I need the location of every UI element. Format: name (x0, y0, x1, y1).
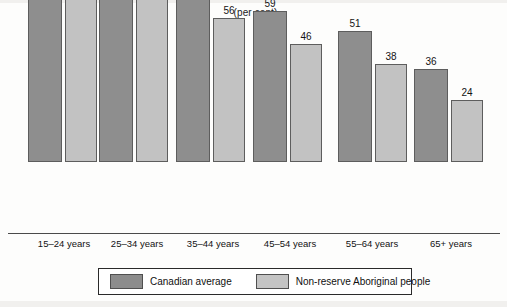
bar-item-canadian-average[interactable]: 51 (338, 18, 372, 162)
bar-chart-figure: (per cent) 71 69 73 (0, 0, 507, 307)
bar-rect[interactable] (213, 18, 245, 162)
plot-area: 71 69 73 65 (0, 0, 507, 236)
x-tick-label-1: 25–34 years (99, 238, 175, 249)
bar-pair: 36 24 (414, 56, 483, 162)
legend-label: Canadian average (150, 276, 232, 287)
bar-pair: 73 65 (99, 0, 168, 162)
legend-swatch-icon (110, 274, 143, 289)
bar-value-label: 24 (461, 87, 472, 98)
legend-label: Non-reserve Aboriginal people (296, 276, 431, 287)
bar-value-label: 51 (349, 18, 360, 29)
bar-rect[interactable] (99, 0, 133, 162)
bar-value-label: 59 (264, 0, 275, 9)
bar-rect[interactable] (414, 69, 448, 162)
x-tick-label-5: 65+ years (416, 238, 486, 249)
bar-rect[interactable] (451, 100, 483, 162)
legend-swatch-icon (256, 274, 289, 289)
x-tick-label-3: 45–54 years (252, 238, 328, 249)
scan-artifact-bottom (0, 301, 507, 307)
bar-rect[interactable] (136, 0, 168, 162)
chart-legend: Canadian average Non-reserve Aboriginal … (98, 268, 412, 295)
bar-item-non-reserve-aboriginal-people[interactable]: 24 (451, 87, 483, 162)
bar-item-non-reserve-aboriginal-people[interactable]: 69 (65, 0, 97, 162)
bar-pair: 67 56 (176, 0, 245, 162)
bar-pair: 59 46 (253, 0, 322, 162)
bar-item-canadian-average[interactable]: 36 (414, 56, 448, 162)
bar-value-label: 56 (223, 5, 234, 16)
bar-item-canadian-average[interactable]: 59 (253, 0, 287, 162)
bar-value-label: 46 (300, 31, 311, 42)
legend-item-canadian-average[interactable]: Canadian average (110, 274, 232, 289)
bar-item-canadian-average[interactable]: 71 (28, 0, 62, 162)
bar-rect[interactable] (375, 64, 407, 162)
bar-item-canadian-average[interactable]: 67 (176, 0, 210, 162)
bar-item-non-reserve-aboriginal-people[interactable]: 65 (136, 0, 168, 162)
bar-value-label: 36 (425, 56, 436, 67)
bar-rect[interactable] (65, 0, 97, 162)
x-tick-label-0: 15–24 years (26, 238, 102, 249)
bar-rect[interactable] (338, 31, 372, 162)
bar-pair: 71 69 (28, 0, 97, 162)
bar-item-canadian-average[interactable]: 73 (99, 0, 133, 162)
x-tick-label-4: 55–64 years (334, 238, 410, 249)
bar-rect[interactable] (28, 0, 62, 162)
bar-item-non-reserve-aboriginal-people[interactable]: 38 (375, 51, 407, 162)
bar-rect[interactable] (176, 0, 210, 162)
bar-rect[interactable] (290, 44, 322, 162)
x-axis-baseline (8, 233, 500, 234)
bar-item-non-reserve-aboriginal-people[interactable]: 46 (290, 31, 322, 162)
bar-pair: 51 38 (338, 18, 407, 162)
bar-value-label: 38 (385, 51, 396, 62)
bar-item-non-reserve-aboriginal-people[interactable]: 56 (213, 5, 245, 162)
x-tick-label-2: 35–44 years (175, 238, 251, 249)
legend-item-non-reserve-aboriginal-people[interactable]: Non-reserve Aboriginal people (256, 274, 431, 289)
bar-rect[interactable] (253, 11, 287, 162)
